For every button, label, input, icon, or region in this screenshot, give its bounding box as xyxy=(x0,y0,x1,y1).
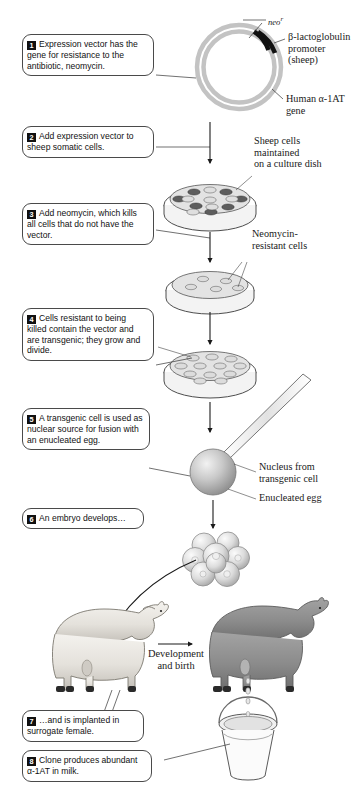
diagram-graphics xyxy=(0,0,351,797)
sheep-dark-icon xyxy=(209,598,328,704)
step-number-badge: 7 xyxy=(27,717,36,726)
step-number-badge: 3 xyxy=(27,210,36,219)
callout-step-1[interactable]: 1Expression vector has the gene for resi… xyxy=(22,34,154,76)
step-number-badge: 8 xyxy=(27,757,36,766)
callout-step-5-text: A transgenic cell is used as nuclear sou… xyxy=(27,413,143,445)
callout-step-2[interactable]: 2Add expression vector to sheep somatic … xyxy=(22,126,154,158)
leader-step1 xyxy=(156,75,196,78)
step-number-badge: 4 xyxy=(27,315,36,324)
petri-dish-icon xyxy=(158,347,256,398)
callout-step-8-text: Clone produces abundant α-1AT in milk. xyxy=(27,755,137,776)
milk-drop-icon xyxy=(246,678,250,704)
petri-dish-icon xyxy=(166,262,254,314)
label-a1at-gene: Human α-1AT gene xyxy=(286,93,345,116)
leader-step7b xyxy=(112,690,120,712)
embryo-cluster-icon xyxy=(183,532,250,587)
label-nucleus-from: Nucleus from transgenic cell xyxy=(259,461,318,484)
callout-step-4[interactable]: 4Cells resistant to being killed contain… xyxy=(22,308,154,361)
step-number-badge: 5 xyxy=(27,415,36,424)
step-number-badge: 6 xyxy=(27,515,36,524)
callout-step-3-text: Add neomycin, which kills all cells that… xyxy=(27,208,137,240)
label-development-birth: Development and birth xyxy=(141,648,211,672)
callout-step-6-text: An embryo develops… xyxy=(39,513,126,523)
sheep-light-icon xyxy=(52,602,168,692)
label-neo: neor xyxy=(268,14,283,28)
leader-step8 xyxy=(164,744,230,760)
label-promoter: β-lactoglobulin promoter (sheep) xyxy=(288,31,351,66)
leader-step5 xyxy=(149,468,190,476)
step-number-badge: 1 xyxy=(27,41,36,50)
callout-step-7[interactable]: 7…and is implanted in surrogate female. xyxy=(22,710,144,742)
step-number-badge: 2 xyxy=(27,133,36,142)
callout-step-6[interactable]: 6An embryo develops… xyxy=(22,508,144,529)
callout-step-5[interactable]: 5A transgenic cell is used as nuclear so… xyxy=(22,408,150,450)
milk-bucket-icon xyxy=(219,697,277,780)
plasmid-ring-icon xyxy=(197,20,285,109)
figure-canvas: neor β-lactoglobulin promoter (sheep) Hu… xyxy=(0,0,351,797)
petri-dish-icon xyxy=(164,176,256,231)
callout-step-7-text: …and is implanted in surrogate female. xyxy=(27,715,119,736)
callout-step-4-text: Cells resistant to being killed contain … xyxy=(27,313,140,355)
label-culture-dish: Sheep cells maintained on a culture dish xyxy=(254,135,322,170)
callout-step-2-text: Add expression vector to sheep somatic c… xyxy=(27,131,134,152)
egg-cell-icon xyxy=(190,449,256,499)
callout-step-1-text: Expression vector has the gene for resis… xyxy=(27,39,138,71)
label-neomycin-resistant: Neomycin- resistant cells xyxy=(252,228,307,251)
leader-step7 xyxy=(104,690,112,712)
callout-step-8[interactable]: 8Clone produces abundant α-1AT in milk. xyxy=(22,750,152,782)
label-enucleated-egg: Enucleated egg xyxy=(259,492,322,504)
callout-step-3[interactable]: 3Add neomycin, which kills all cells tha… xyxy=(22,203,154,245)
